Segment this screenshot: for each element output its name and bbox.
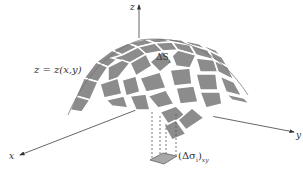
x-axis (20, 110, 136, 155)
surface-equation-label: z = z(x,y) (34, 65, 82, 75)
surface-patch-symbol: ΔS (156, 52, 169, 62)
x-axis-label: x (9, 152, 14, 161)
projection-label: (Δσi)xy (178, 151, 209, 163)
projection-label-open: (Δσ (178, 150, 196, 161)
z-axis-label: z (130, 3, 135, 12)
diagram-canvas: z x y z = z(x,y) ΔSi (Δσi)xy (0, 0, 303, 173)
projected-area-element (150, 153, 177, 164)
surface-patch-label: ΔSi (156, 53, 170, 64)
y-axis-label: y (296, 131, 301, 140)
projection-label-sub-xy: xy (202, 156, 209, 163)
surface-patch-subscript: i (169, 58, 171, 64)
